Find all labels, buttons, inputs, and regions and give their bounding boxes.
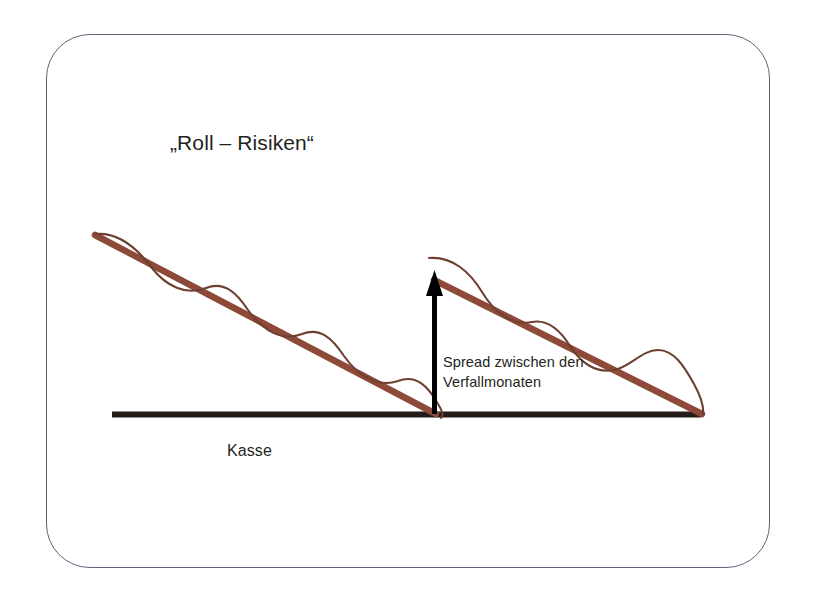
spot-axis-label: Kasse xyxy=(227,441,272,461)
page-title: „Roll – Risiken“ xyxy=(170,131,314,155)
spread-annotation-label: Spread zwischen denVerfallmonaten xyxy=(443,352,584,392)
forward-curve-line-2 xyxy=(434,280,702,414)
diagram-svg xyxy=(0,0,818,611)
spread-annotation-line-1: Spread zwischen den xyxy=(443,354,584,370)
slide-canvas: „Roll – Risiken“ Spread zwischen denVerf… xyxy=(0,0,818,611)
spread-annotation-line-2: Verfallmonaten xyxy=(443,374,541,390)
